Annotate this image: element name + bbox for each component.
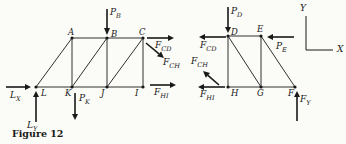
axis-label-x: X xyxy=(337,45,343,54)
force-label-PE-sub: E xyxy=(282,46,287,54)
figure-caption: Figure 12 xyxy=(12,129,63,139)
node-I xyxy=(141,85,144,88)
node-D xyxy=(226,34,229,37)
force-label-PE: PE xyxy=(276,42,287,53)
force-label-FCD-left-sub: CD xyxy=(161,45,171,53)
force-label-PB-sub: B xyxy=(116,12,121,20)
node-B xyxy=(105,36,108,39)
node-label-G: G xyxy=(257,89,264,98)
member-JC xyxy=(107,38,143,87)
node-label-B: B xyxy=(111,30,117,39)
arrow-FCH-up-left-icon xyxy=(203,71,219,85)
member-LA xyxy=(36,38,72,87)
force-label-FY: FY xyxy=(300,95,311,106)
force-label-FCH-right-sub: CH xyxy=(197,61,208,69)
truss-diagram-svg xyxy=(0,0,346,144)
force-label-PB: PB xyxy=(110,8,121,19)
node-L xyxy=(34,85,37,88)
force-label-FHI-right-sub: HI xyxy=(206,94,214,102)
axis-label-y: Y xyxy=(300,4,306,13)
force-label-FCD-left: FCD xyxy=(155,41,171,52)
force-label-LX: LX xyxy=(10,91,21,102)
member-DG xyxy=(228,36,261,87)
node-H xyxy=(226,85,229,88)
force-label-FHI-right: FHI xyxy=(200,90,215,101)
left-truss-force-arrows xyxy=(6,9,176,122)
force-label-PK-sub: K xyxy=(85,98,90,106)
node-E xyxy=(259,34,262,37)
force-label-FCD-right-sub: CD xyxy=(206,45,216,53)
force-label-PD-sub: D xyxy=(237,11,242,19)
node-label-F: F xyxy=(288,89,294,98)
node-J xyxy=(105,85,108,88)
node-label-J: J xyxy=(101,89,104,98)
arrow-PE-left-icon xyxy=(267,34,294,40)
force-label-FY-sub: Y xyxy=(306,99,310,107)
force-label-FHI-left: FHI xyxy=(154,88,169,99)
force-label-FCH-left-sub: CH xyxy=(169,62,180,70)
node-label-I: I xyxy=(135,89,138,98)
arrow-LY-up-icon xyxy=(33,91,39,122)
force-label-PD: PD xyxy=(231,7,242,18)
node-label-D: D xyxy=(231,28,238,37)
force-label-FCH-left: FCH xyxy=(163,58,180,69)
force-label-PK: PK xyxy=(79,94,90,105)
figure-12-truss-diagram: A B C L K J I D E H G F PB FCD FCH FHI L… xyxy=(0,0,346,144)
force-label-FCD-right: FCD xyxy=(200,41,216,52)
left-truss-members xyxy=(36,38,143,87)
force-label-LX-sub: X xyxy=(16,95,21,103)
arrow-PK-down-icon xyxy=(72,93,78,120)
node-label-E: E xyxy=(257,25,263,34)
force-label-FHI-left-sub: HI xyxy=(160,92,168,100)
coordinate-axes-icon xyxy=(306,16,333,50)
node-label-H: H xyxy=(231,89,238,98)
node-label-L: L xyxy=(41,89,47,98)
right-truss-force-arrows xyxy=(198,7,300,121)
node-label-A: A xyxy=(68,28,74,37)
node-label-K: K xyxy=(65,89,71,98)
member-KB xyxy=(72,38,107,87)
force-label-FCH-right: FCH xyxy=(191,57,208,68)
node-label-C: C xyxy=(139,28,146,37)
